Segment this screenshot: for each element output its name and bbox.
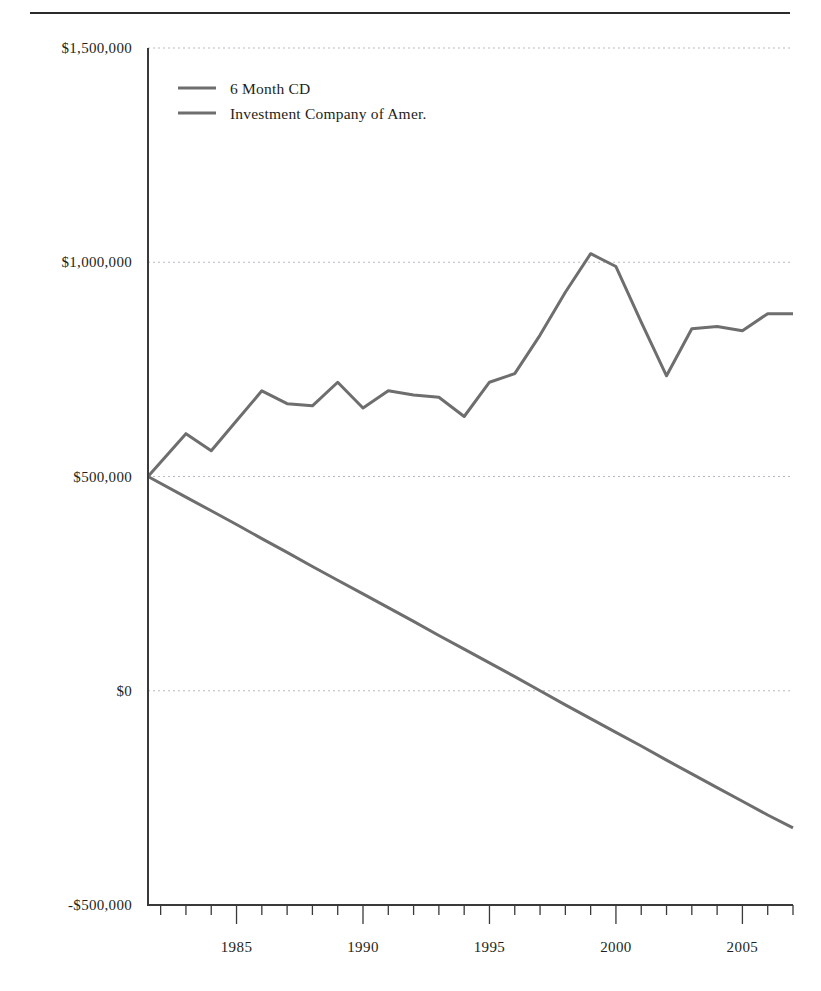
y-tick-label-0: $1,500,000	[62, 40, 133, 56]
x-tick-label-0: 1985	[221, 939, 253, 955]
x-tick-label-3: 2000	[600, 939, 632, 955]
y-tick-label-2: $500,000	[73, 469, 132, 485]
line-chart-figure: $1,500,000$1,000,000$500,000$0-$500,000 …	[0, 0, 821, 991]
x-tick-label-1: 1990	[347, 939, 379, 955]
legend-label-1: Investment Company of Amer.	[230, 105, 427, 122]
x-tick-label-4: 2005	[727, 939, 759, 955]
y-tick-label-4: -$500,000	[68, 897, 132, 913]
series-line-1	[148, 477, 793, 828]
series-group	[148, 254, 793, 828]
chart-page: $1,500,000$1,000,000$500,000$0-$500,000 …	[0, 0, 821, 991]
y-axis-labels-group: $1,500,000$1,000,000$500,000$0-$500,000	[62, 40, 133, 913]
x-tick-label-2: 1995	[474, 939, 506, 955]
legend-label-0: 6 Month CD	[230, 80, 310, 97]
legend-group: 6 Month CDInvestment Company of Amer.	[178, 80, 427, 122]
ticks-group	[161, 905, 793, 924]
y-tick-label-3: $0	[116, 683, 132, 699]
series-line-0	[148, 254, 793, 477]
x-axis-labels-group: 19851990199520002005	[221, 939, 758, 955]
y-tick-label-1: $1,000,000	[62, 254, 133, 270]
